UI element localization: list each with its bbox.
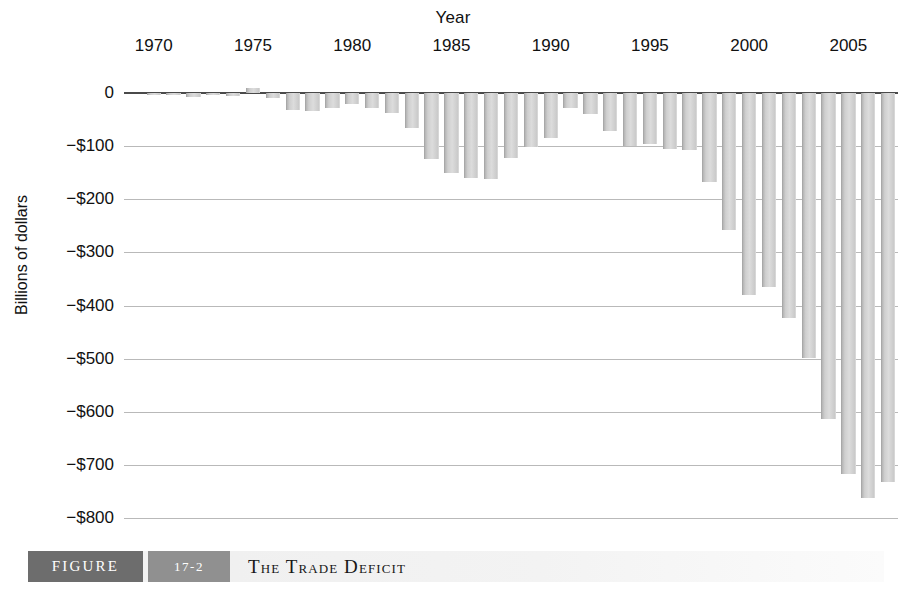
y-axis-tick-label: −$800	[66, 508, 114, 528]
bar	[841, 93, 855, 474]
gridline	[124, 465, 898, 466]
y-axis-tick-label: −$200	[66, 189, 114, 209]
bar	[286, 93, 300, 110]
bar	[464, 93, 478, 178]
bar	[206, 93, 220, 95]
gridline	[124, 359, 898, 360]
bar	[682, 93, 696, 150]
y-axis-tick-label: −$500	[66, 349, 114, 369]
y-axis-tick-labels: 0−$100−$200−$300−$400−$500−$600−$700−$80…	[0, 0, 124, 532]
y-axis-tick-label: −$700	[66, 455, 114, 475]
bar	[821, 93, 835, 419]
bar	[881, 93, 895, 482]
bar	[266, 93, 280, 98]
y-axis-tick-label: −$600	[66, 402, 114, 422]
bar	[424, 93, 438, 159]
bar	[166, 93, 180, 95]
bar	[325, 93, 339, 108]
bar	[544, 93, 558, 138]
bar	[444, 93, 458, 173]
gridline	[124, 518, 898, 519]
y-axis-tick-label: −$300	[66, 242, 114, 262]
bar	[722, 93, 736, 230]
bar	[246, 88, 260, 93]
bar	[484, 93, 498, 179]
bar	[186, 93, 200, 97]
bar	[603, 93, 617, 131]
bar	[663, 93, 677, 149]
bar	[802, 93, 816, 358]
caption-figure-number: 17-2	[148, 551, 230, 582]
bar	[563, 93, 577, 108]
bar	[305, 93, 319, 111]
bar	[365, 93, 379, 108]
plot-region	[124, 0, 898, 532]
chart-area: Year Billions of dollars 197019751980198…	[0, 0, 906, 532]
bar	[762, 93, 776, 287]
bar	[524, 93, 538, 147]
bar	[147, 93, 161, 95]
gridline	[124, 412, 898, 413]
figure-container: Year Billions of dollars 197019751980198…	[0, 0, 906, 610]
bar	[405, 93, 419, 128]
caption-figure-label: FIGURE	[28, 551, 143, 582]
bar	[702, 93, 716, 182]
caption-figure-title: The Trade Deficit	[230, 551, 884, 582]
bar	[345, 93, 359, 104]
bar	[504, 93, 518, 158]
figure-caption-bar: FIGURE 17-2 The Trade Deficit	[28, 551, 884, 582]
y-axis-tick-label: −$400	[66, 296, 114, 316]
bar	[742, 93, 756, 295]
y-axis-tick-label: 0	[105, 83, 114, 103]
bar	[861, 93, 875, 498]
bar	[623, 93, 637, 146]
bar	[782, 93, 796, 318]
bar	[643, 93, 657, 144]
y-axis-tick-label: −$100	[66, 136, 114, 156]
bar	[226, 93, 240, 96]
bar	[385, 93, 399, 113]
bar	[583, 93, 597, 114]
